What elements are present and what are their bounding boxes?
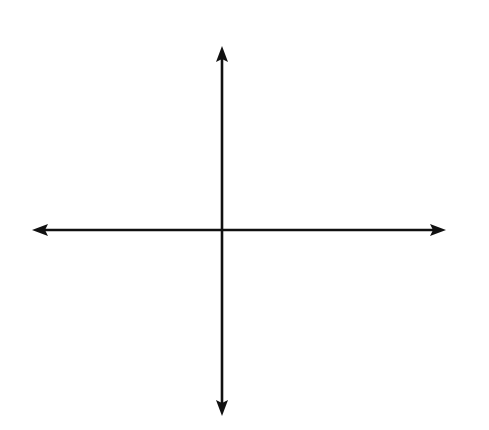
- axes: [42, 58, 436, 405]
- coordinate-plane: [0, 0, 489, 430]
